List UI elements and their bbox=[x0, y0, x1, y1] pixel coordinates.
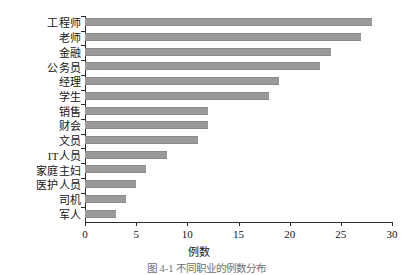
x-axis-tick-label: 5 bbox=[133, 228, 139, 240]
y-axis-tick-label: 经理 bbox=[3, 76, 81, 88]
x-axis-tick-mark bbox=[341, 222, 342, 226]
bar bbox=[85, 195, 126, 203]
bar-row bbox=[85, 75, 392, 90]
y-axis-tick-mark bbox=[81, 134, 85, 135]
y-axis-tick-label: 学生 bbox=[3, 91, 81, 103]
x-axis-tick-mark bbox=[392, 222, 393, 226]
bar-row bbox=[85, 207, 392, 222]
y-axis-tick-mark bbox=[81, 60, 85, 61]
y-axis-tick-label: 司机 bbox=[3, 194, 81, 206]
bar bbox=[85, 48, 331, 56]
x-axis-tick-label: 15 bbox=[233, 228, 244, 240]
y-axis-tick-label: 工程师 bbox=[3, 17, 81, 29]
x-axis-tick-mark bbox=[187, 222, 188, 226]
x-axis-tick-mark bbox=[136, 222, 137, 226]
bar-row bbox=[85, 31, 392, 46]
x-axis-tick-label: 10 bbox=[182, 228, 193, 240]
y-axis-tick-mark bbox=[81, 31, 85, 32]
y-axis-tick-label: 财会 bbox=[3, 120, 81, 132]
bar-row bbox=[85, 104, 392, 119]
bar-row bbox=[85, 193, 392, 208]
y-axis-tick-mark bbox=[81, 193, 85, 194]
bar-row bbox=[85, 45, 392, 60]
y-axis-tick-mark bbox=[81, 178, 85, 179]
bar-row bbox=[85, 134, 392, 149]
y-axis-tick-mark bbox=[81, 163, 85, 164]
y-axis-tick-label: 文员 bbox=[3, 135, 81, 147]
x-axis-tick-label: 25 bbox=[335, 228, 346, 240]
bar bbox=[85, 33, 361, 41]
y-axis-tick-label: 金融 bbox=[3, 47, 81, 59]
bar-row bbox=[85, 16, 392, 31]
bar bbox=[85, 180, 136, 188]
bar-row bbox=[85, 90, 392, 105]
x-axis-tick-mark bbox=[239, 222, 240, 226]
x-axis-title-label: 例数 bbox=[188, 246, 210, 258]
bar bbox=[85, 18, 372, 26]
y-axis-tick-mark bbox=[81, 119, 85, 120]
x-axis-tick-mark bbox=[85, 222, 86, 226]
bar-row bbox=[85, 119, 392, 134]
bar-row bbox=[85, 60, 392, 75]
y-axis-tick-mark bbox=[81, 148, 85, 149]
y-axis-tick-label: 医护人员 bbox=[3, 179, 81, 191]
y-axis-tick-label: IT人员 bbox=[3, 150, 81, 162]
figure-caption: 图 4-1 不同职业的例数分布 bbox=[0, 260, 413, 275]
plot-area bbox=[85, 16, 392, 222]
bar bbox=[85, 121, 208, 129]
y-axis-tick-label: 家庭主妇 bbox=[3, 165, 81, 177]
bar bbox=[85, 77, 279, 85]
x-axis-title: 例数 bbox=[0, 243, 413, 259]
x-axis-tick-label: 20 bbox=[284, 228, 295, 240]
bar bbox=[85, 210, 116, 218]
y-axis-tick-mark bbox=[81, 16, 85, 17]
x-axis-tick-label: 30 bbox=[387, 228, 398, 240]
bar bbox=[85, 107, 208, 115]
bar bbox=[85, 165, 146, 173]
y-axis-tick-label: 老师 bbox=[3, 32, 81, 44]
x-axis-tick-label: 0 bbox=[82, 228, 88, 240]
bar-row bbox=[85, 148, 392, 163]
y-axis-tick-label: 军人 bbox=[3, 209, 81, 221]
bar bbox=[85, 136, 198, 144]
bar bbox=[85, 151, 167, 159]
bar bbox=[85, 62, 320, 70]
y-axis-tick-label: 公务员 bbox=[3, 62, 81, 74]
y-axis-tick-mark bbox=[81, 45, 85, 46]
bar-row bbox=[85, 178, 392, 193]
y-axis-tick-mark bbox=[81, 75, 85, 76]
y-axis-tick-mark bbox=[81, 104, 85, 105]
x-axis-tick-mark bbox=[290, 222, 291, 226]
y-axis-tick-mark bbox=[81, 90, 85, 91]
bar-row bbox=[85, 163, 392, 178]
y-axis-tick-label: 销售 bbox=[3, 106, 81, 118]
y-axis-tick-mark bbox=[81, 207, 85, 208]
bar bbox=[85, 92, 269, 100]
y-axis-category-labels: 工程师老师金融公务员经理学生销售财会文员IT人员家庭主妇医护人员司机军人 bbox=[0, 16, 81, 222]
